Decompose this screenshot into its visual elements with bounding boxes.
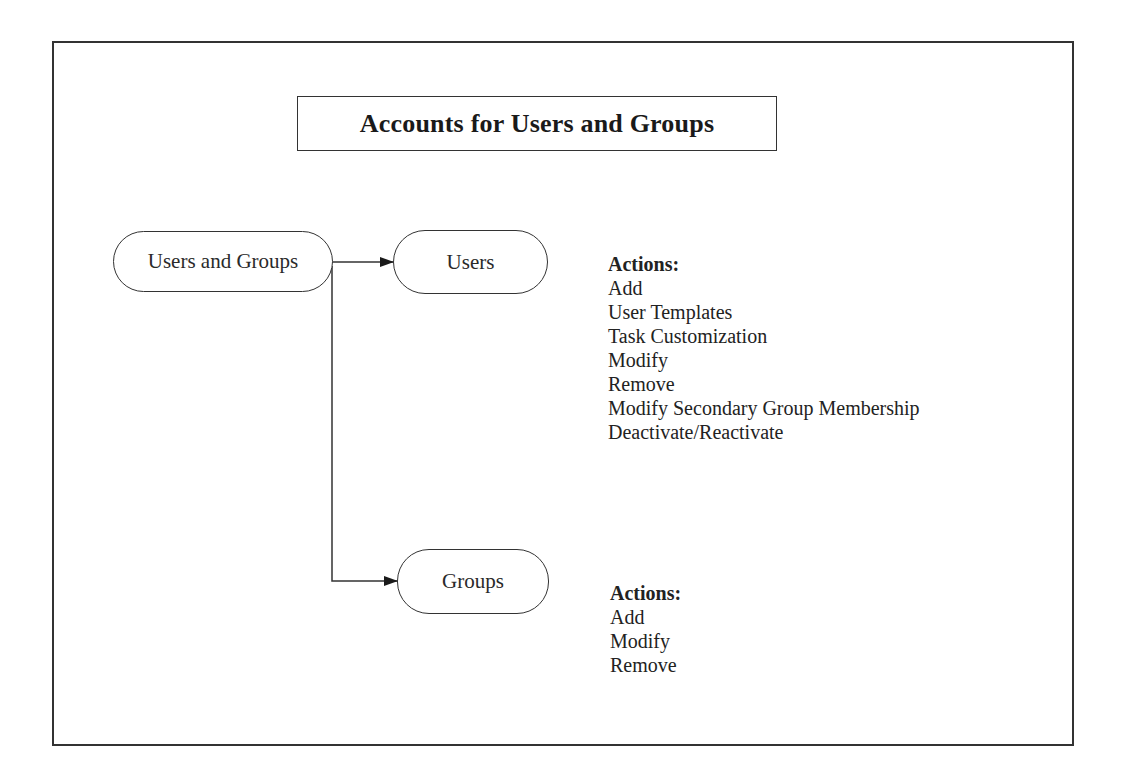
node-groups-label: Groups — [442, 569, 504, 594]
users-action-item: Modify Secondary Group Membership — [608, 396, 920, 420]
groups-actions-list: Actions: Add Modify Remove — [610, 581, 681, 677]
node-users-and-groups-label: Users and Groups — [148, 249, 298, 274]
groups-actions-header: Actions: — [610, 581, 681, 605]
node-groups: Groups — [397, 549, 549, 614]
groups-action-item: Add — [610, 605, 681, 629]
groups-action-item: Modify — [610, 629, 681, 653]
edge-root-to-groups — [332, 266, 397, 581]
node-users-label: Users — [447, 250, 495, 275]
users-action-item: User Templates — [608, 300, 920, 324]
users-action-item: Remove — [608, 372, 920, 396]
node-users-and-groups: Users and Groups — [113, 231, 333, 292]
users-action-item: Modify — [608, 348, 920, 372]
node-users: Users — [393, 230, 548, 294]
users-actions-list: Actions: Add User Templates Task Customi… — [608, 252, 920, 444]
users-actions-header: Actions: — [608, 252, 920, 276]
groups-action-item: Remove — [610, 653, 681, 677]
users-action-item: Task Customization — [608, 324, 920, 348]
users-action-item: Add — [608, 276, 920, 300]
connectors — [0, 0, 1129, 782]
users-action-item: Deactivate/Reactivate — [608, 420, 920, 444]
